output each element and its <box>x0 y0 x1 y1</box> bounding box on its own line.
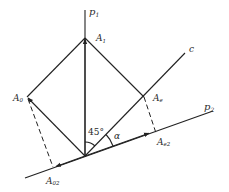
label-angle-45: 45° <box>88 127 104 137</box>
label-A02: A02 <box>45 176 60 186</box>
angle-arc-45 <box>85 142 95 146</box>
label-A0: A0 <box>12 93 24 103</box>
label-A1: A1 <box>95 33 106 44</box>
vector-diagram: p1 A1 A0 Ae c p2 Ae2 A02 45° α <box>0 0 229 192</box>
angle-arc-alpha <box>106 135 113 147</box>
label-angle-alpha: α <box>114 131 120 141</box>
vector-A0 <box>28 98 85 156</box>
line-A1-A0 <box>27 38 85 97</box>
label-c: c <box>189 44 194 54</box>
projection-A0-A02 <box>28 99 53 167</box>
vector-A02 <box>56 156 85 166</box>
label-p2: p2 <box>204 101 214 113</box>
label-Ae2: Ae2 <box>156 137 171 147</box>
label-p1: p1 <box>89 6 99 18</box>
line-A1-Ae <box>85 38 144 97</box>
label-Ae: Ae <box>152 93 164 103</box>
